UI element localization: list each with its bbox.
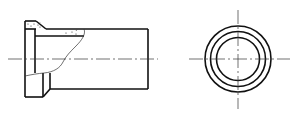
drawing-canvas (0, 0, 293, 118)
front-view (8, 21, 158, 97)
bottom-chamfer (43, 73, 50, 97)
side-view (189, 10, 290, 109)
